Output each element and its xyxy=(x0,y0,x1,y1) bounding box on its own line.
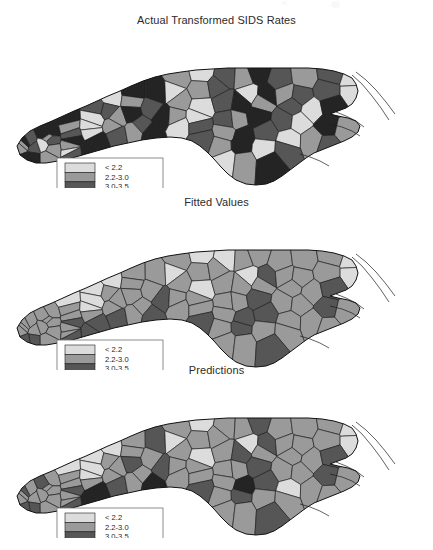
sids-rates-figure: Actual Transformed SIDS Rates < 2.22.2-3… xyxy=(0,0,433,550)
legend-label: 3.0-3.5 xyxy=(105,532,129,538)
barrier-island-coastline xyxy=(356,422,395,464)
panel-predictions: Predictions < 2.22.2-3.03.0-3.5> 3.5 xyxy=(0,364,433,538)
scan-artifact-a xyxy=(282,1,287,5)
map-fitted: < 2.22.2-3.03.0-3.5> 3.5 xyxy=(0,210,433,370)
legend-swatch xyxy=(65,532,95,538)
map-predictions: < 2.22.2-3.03.0-3.5> 3.5 xyxy=(0,378,433,538)
county-region xyxy=(112,230,145,280)
county-region xyxy=(335,461,433,538)
county-region xyxy=(112,48,145,98)
county-region xyxy=(6,65,50,139)
county-region xyxy=(0,89,30,148)
county-region xyxy=(170,480,214,538)
panel-title-fitted: Fitted Values xyxy=(0,196,433,210)
legend: < 2.22.2-3.03.0-3.5> 3.5 xyxy=(57,508,163,538)
panel-title-actual: Actual Transformed SIDS Rates xyxy=(0,14,433,28)
county-region xyxy=(64,230,123,289)
county-region xyxy=(267,230,293,272)
county-region xyxy=(55,48,104,114)
county-region xyxy=(145,233,166,285)
county-region xyxy=(170,130,214,188)
county-region xyxy=(55,230,104,296)
legend-label: 2.2-3.0 xyxy=(105,355,129,364)
county-region xyxy=(64,398,123,457)
legend-swatch xyxy=(65,345,95,354)
county-region xyxy=(29,502,41,538)
county-region xyxy=(0,271,30,330)
barrier-island-coastline xyxy=(352,75,389,120)
county-region xyxy=(0,398,61,486)
legend-swatch xyxy=(65,182,95,188)
county-region xyxy=(177,150,236,188)
county-region xyxy=(267,48,293,90)
map-svg-fitted: < 2.22.2-3.03.0-3.5> 3.5 xyxy=(0,210,433,370)
legend-label: 3.0-3.5 xyxy=(105,182,129,188)
scan-artifact-b xyxy=(331,1,340,8)
county-region xyxy=(267,398,293,440)
barrier-island-coastline xyxy=(356,72,395,114)
legend-swatch xyxy=(65,163,95,172)
county-region xyxy=(0,235,37,328)
barrier-island-coastline xyxy=(352,257,389,302)
county-region xyxy=(335,111,433,188)
county-region xyxy=(177,500,236,538)
county-region xyxy=(0,230,61,318)
legend-swatch xyxy=(65,513,95,522)
county-region xyxy=(145,401,166,453)
legend-swatch xyxy=(65,172,95,181)
county-region xyxy=(335,293,433,370)
panel-fitted: Fitted Values < 2.22.2-3.03.0-3.5> 3.5 xyxy=(0,196,433,370)
legend-label: 2.2-3.0 xyxy=(105,523,129,532)
legend-label: < 2.2 xyxy=(105,345,122,354)
barrier-island-coastline xyxy=(356,254,395,296)
legend-swatch xyxy=(65,354,95,363)
panel-actual: Actual Transformed SIDS Rates < 2.22.2-3… xyxy=(0,14,433,188)
county-region xyxy=(64,48,123,107)
county-region xyxy=(6,247,50,321)
legend: < 2.22.2-3.03.0-3.5> 3.5 xyxy=(57,158,163,188)
county-region xyxy=(0,403,37,496)
county-region xyxy=(0,48,61,136)
barrier-island-coastline xyxy=(352,425,389,470)
county-region xyxy=(112,398,145,448)
county-region xyxy=(0,439,30,498)
panel-title-predictions: Predictions xyxy=(0,364,433,378)
county-region xyxy=(0,53,37,146)
map-svg-actual: < 2.22.2-3.03.0-3.5> 3.5 xyxy=(0,28,433,188)
county-region xyxy=(6,415,50,489)
county-region xyxy=(55,398,104,464)
legend-label: < 2.2 xyxy=(105,163,122,172)
map-svg-predictions: < 2.22.2-3.03.0-3.5> 3.5 xyxy=(0,378,433,538)
county-region xyxy=(145,51,166,103)
county-region xyxy=(29,152,41,188)
map-actual: < 2.22.2-3.03.0-3.5> 3.5 xyxy=(0,28,433,188)
legend-swatch xyxy=(65,522,95,531)
legend-label: < 2.2 xyxy=(105,513,122,522)
county-region xyxy=(170,312,214,370)
legend-label: 2.2-3.0 xyxy=(105,173,129,182)
